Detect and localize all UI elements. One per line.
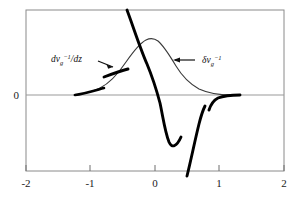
label-base-dz: /dz [70, 54, 82, 64]
x-tick-label-neg2: -2 [21, 177, 30, 189]
label-sup-minus1: −1 [63, 53, 71, 60]
x-tick-label-1: 1 [216, 177, 222, 189]
x-tick-label-2: 2 [281, 177, 287, 189]
plot-svg: -2 -1 0 1 2 0 dvg−1/dz [0, 0, 301, 197]
figure-container: -2 -1 0 1 2 0 dvg−1/dz [0, 0, 301, 197]
x-tick-label-0: 0 [152, 177, 158, 189]
label-sup-minus1-right: −1 [214, 54, 222, 61]
y-axis-zero-label: 0 [14, 89, 20, 101]
x-tick-label-neg1: -1 [85, 177, 94, 189]
canvas-background [0, 0, 301, 197]
